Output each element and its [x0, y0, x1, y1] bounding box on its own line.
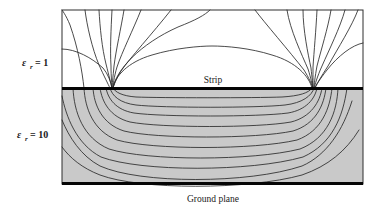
microstrip-field-diagram: ε r = 1 ε r = 10 Strip Ground plane	[0, 0, 378, 207]
label-epsilon-dielectric: ε r = 10	[17, 129, 48, 143]
epsilon-value-dielectric: = 10	[30, 129, 48, 140]
epsilon-symbol-air: ε	[22, 57, 27, 68]
strip-label: Strip	[204, 75, 223, 85]
ground-plane-label: Ground plane	[187, 194, 239, 204]
dielectric-region	[62, 88, 363, 184]
epsilon-subscript-dielectric: r	[25, 135, 28, 143]
epsilon-value-air: = 1	[35, 57, 48, 68]
epsilon-symbol-dielectric: ε	[17, 129, 22, 140]
epsilon-subscript-air: r	[30, 63, 33, 71]
label-epsilon-air: ε r = 1	[22, 57, 48, 71]
